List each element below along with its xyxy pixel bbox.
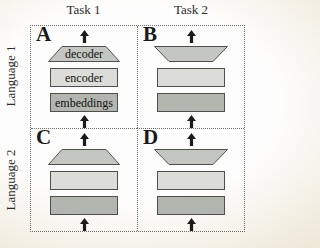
column-header-task-2: Task 2: [137, 2, 245, 18]
up-arrow-icon: [80, 218, 89, 231]
column-header-task-1: Task 1: [30, 2, 137, 18]
row-header-language-1: Language 1: [2, 21, 20, 131]
panel-b: B: [137, 26, 244, 128]
panel-letter: A: [36, 22, 51, 47]
encoder-label: encoder: [65, 72, 103, 84]
embeddings-shape: [157, 196, 225, 215]
up-arrow-icon: [80, 30, 89, 43]
encoder-shape: [50, 171, 118, 190]
up-arrow-icon: [187, 30, 196, 43]
panel-c: C: [31, 128, 137, 231]
panel-a: A decoder encoder embeddings: [31, 26, 137, 128]
decoder-shape: [154, 46, 228, 62]
figure-grid: A decoder encoder embeddings B: [30, 25, 245, 232]
up-arrow-icon: [80, 115, 89, 128]
panel-d: D: [137, 128, 244, 231]
embeddings-shape: [157, 93, 225, 112]
embeddings-shape: [50, 196, 118, 215]
decoder-shape: decoder: [48, 46, 120, 62]
embeddings-label: embeddings: [55, 97, 113, 109]
encoder-shape: encoder: [50, 68, 118, 87]
up-arrow-icon: [187, 133, 196, 146]
decoder-label: decoder: [48, 46, 120, 62]
encoder-shape: [157, 171, 225, 190]
embeddings-shape: embeddings: [50, 93, 118, 112]
decoder-shape: [48, 149, 120, 165]
up-arrow-icon: [80, 133, 89, 146]
panel-letter: B: [143, 22, 157, 47]
panel-letter: D: [143, 125, 158, 150]
up-arrow-icon: [187, 218, 196, 231]
up-arrow-icon: [187, 115, 196, 128]
panel-letter: C: [36, 125, 51, 150]
encoder-shape: [157, 68, 225, 87]
row-header-language-2: Language 2: [2, 125, 20, 235]
decoder-shape: [154, 149, 228, 165]
